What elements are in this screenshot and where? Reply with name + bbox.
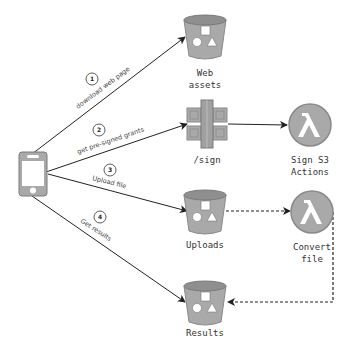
step-3-badge: 3	[104, 164, 116, 176]
web-assets-label-2: assets	[189, 80, 222, 90]
sign-label: /sign	[193, 155, 220, 165]
edge-get-results	[32, 196, 185, 302]
step-2-badge: 2	[93, 124, 105, 136]
svg-text:2: 2	[97, 126, 101, 133]
edge-get-pre-signed-grants	[46, 124, 187, 172]
lambda-convert-icon	[291, 191, 333, 233]
web-assets-bucket-icon	[184, 15, 226, 59]
edge-sign-to-lambda	[228, 124, 287, 125]
svg-text:3: 3	[108, 166, 112, 173]
uploads-bucket-icon	[184, 190, 226, 234]
api-gateway-icon	[187, 100, 227, 148]
svg-text:1: 1	[90, 75, 94, 82]
svg-text:4: 4	[98, 213, 102, 220]
web-assets-label-1: Web	[197, 68, 213, 78]
edge-label-get-pre-signed-grants: get pre-signed grants	[76, 125, 146, 156]
lambda-sign-icon	[289, 104, 331, 146]
step-1-badge: 1	[86, 73, 98, 85]
results-bucket-icon	[184, 281, 226, 325]
convert-file-label-2: file	[301, 254, 323, 264]
sign-s3-actions-label-1: Sign S3	[291, 155, 329, 165]
sign-s3-actions-label-2: Actions	[291, 167, 329, 177]
uploads-label: Uploads	[186, 240, 224, 250]
edge-label-download-web-page: download web page	[74, 65, 131, 111]
results-label: Results	[186, 328, 224, 338]
architecture-diagram: 1 download web page 2 get pre-signed gra…	[0, 0, 353, 352]
mobile-phone-icon	[19, 152, 47, 196]
convert-file-label-1: Convert	[293, 242, 331, 252]
edge-label-upload-file: Upload file	[92, 174, 128, 190]
step-4-badge: 4	[94, 211, 106, 223]
